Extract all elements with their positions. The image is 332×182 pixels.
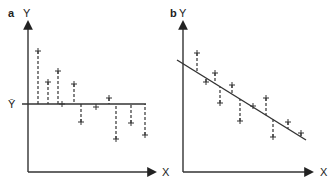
panel-a-points [35, 48, 148, 142]
data-point-marker [113, 136, 119, 142]
data-point-marker [106, 95, 112, 101]
panel-b-label: b [170, 7, 177, 19]
data-point-marker [59, 101, 65, 107]
data-point-marker [212, 70, 218, 76]
data-point-marker [270, 134, 276, 140]
panel-b: b Y X [170, 7, 328, 178]
panel-b-points [194, 50, 304, 140]
panel-a-ybar-label: Ȳ [8, 98, 16, 110]
panel-b-x-axis-label: X [320, 166, 328, 178]
figure: a Y X Ȳ b Y X [0, 0, 332, 182]
panel-a-x-axis-label: X [162, 166, 170, 178]
data-point-marker [78, 119, 84, 125]
data-point-marker [128, 120, 134, 126]
data-point-marker [71, 81, 77, 87]
panel-a: a Y X Ȳ [8, 7, 170, 178]
data-point-marker [285, 119, 291, 125]
data-point-marker [35, 48, 41, 54]
data-point-marker [229, 82, 235, 88]
data-point-marker [194, 50, 200, 56]
panel-b-y-axis-label: Y [179, 7, 187, 19]
panel-a-label: a [8, 7, 15, 19]
data-point-marker [237, 118, 243, 124]
data-point-marker [263, 95, 269, 101]
data-point-marker [45, 79, 51, 85]
panel-a-y-axis-label: Y [23, 7, 31, 19]
panel-b-regression-line [177, 60, 306, 140]
data-point-marker [217, 100, 223, 106]
data-point-marker [55, 68, 61, 74]
data-point-marker [93, 104, 99, 110]
data-point-marker [142, 132, 148, 138]
